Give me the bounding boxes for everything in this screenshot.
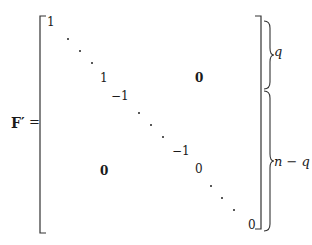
entry-zero-mid: 0 — [195, 162, 203, 176]
entry-one-top: 1 — [47, 15, 55, 29]
diag-dot — [210, 185, 212, 187]
diag-dot — [162, 136, 164, 138]
lower-brace-label: n − q — [274, 154, 310, 169]
entry-zero-bottom: 0 — [248, 218, 256, 232]
diag-dot — [91, 62, 93, 64]
matrix-name: F′ — [11, 115, 25, 131]
zero-block-lower-left: 0 — [100, 164, 108, 178]
diag-dot — [67, 38, 69, 40]
diag-dot — [233, 209, 235, 211]
zero-block-upper-right: 0 — [195, 71, 203, 85]
entry-neg-one-b: −1 — [172, 144, 190, 158]
diag-dot — [79, 50, 81, 52]
upper-brace-label: q — [274, 44, 282, 59]
lower-brace-icon — [262, 90, 274, 232]
upper-brace-icon — [262, 20, 274, 90]
diag-dot — [221, 197, 223, 199]
left-bracket-icon — [38, 15, 48, 235]
entry-neg-one-a: −1 — [111, 89, 129, 103]
entry-one-mid: 1 — [100, 71, 108, 85]
diag-dot — [138, 112, 140, 114]
diag-dot — [150, 124, 152, 126]
